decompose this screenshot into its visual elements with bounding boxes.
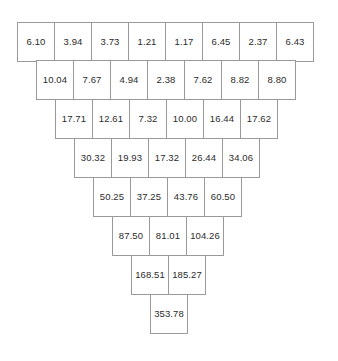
pyramid-cell: 3.94 bbox=[54, 22, 92, 62]
pyramid-cell: 353.78 bbox=[150, 294, 188, 334]
pyramid-cell: 6.45 bbox=[202, 22, 240, 62]
pyramid-row: 6.103.943.731.211.176.452.376.43 bbox=[17, 22, 313, 62]
pyramid-row: 17.7112.617.3210.0016.4417.62 bbox=[55, 99, 277, 139]
pyramid-cell: 12.61 bbox=[92, 99, 130, 139]
pyramid-cell: 6.10 bbox=[17, 22, 55, 62]
pyramid-cell: 60.50 bbox=[204, 177, 242, 217]
pyramid-cell: 6.43 bbox=[276, 22, 314, 62]
pyramid-cell: 10.04 bbox=[36, 60, 74, 100]
pyramid-cell: 8.82 bbox=[221, 60, 259, 100]
pyramid-cell: 17.71 bbox=[55, 99, 93, 139]
pyramid-row: 30.3219.9317.3226.4434.06 bbox=[74, 138, 259, 178]
pyramid-cell: 1.17 bbox=[165, 22, 203, 62]
pyramid-cell: 50.25 bbox=[93, 177, 131, 217]
pyramid-cell: 43.76 bbox=[167, 177, 205, 217]
pyramid-row: 10.047.674.942.387.628.828.80 bbox=[36, 60, 295, 100]
pyramid-cell: 7.32 bbox=[129, 99, 167, 139]
pyramid-cell: 7.67 bbox=[73, 60, 111, 100]
pyramid-cell: 37.25 bbox=[130, 177, 168, 217]
pyramid-cell: 16.44 bbox=[203, 99, 241, 139]
pyramid-cell: 17.32 bbox=[148, 138, 186, 178]
pyramid-cell: 26.44 bbox=[185, 138, 223, 178]
pyramid-cell: 3.73 bbox=[91, 22, 129, 62]
pyramid-row: 50.2537.2543.7660.50 bbox=[93, 177, 241, 217]
pyramid-cell: 168.51 bbox=[131, 255, 169, 295]
pyramid-cell: 34.06 bbox=[222, 138, 260, 178]
pyramid-cell: 4.94 bbox=[110, 60, 148, 100]
pyramid-cell: 185.27 bbox=[168, 255, 206, 295]
pyramid-cell: 7.62 bbox=[184, 60, 222, 100]
pyramid-cell: 104.26 bbox=[186, 216, 224, 256]
sum-pyramid: 6.103.943.731.211.176.452.376.4310.047.6… bbox=[0, 0, 338, 361]
pyramid-cell: 2.38 bbox=[147, 60, 185, 100]
pyramid-cell: 87.50 bbox=[112, 216, 150, 256]
pyramid-cell: 19.93 bbox=[111, 138, 149, 178]
pyramid-row: 168.51185.27 bbox=[131, 255, 205, 295]
pyramid-row: 87.5081.01104.26 bbox=[112, 216, 223, 256]
pyramid-row: 353.78 bbox=[150, 294, 187, 334]
pyramid-cell: 2.37 bbox=[239, 22, 277, 62]
pyramid-cell: 81.01 bbox=[149, 216, 187, 256]
pyramid-cell: 8.80 bbox=[258, 60, 296, 100]
pyramid-cell: 30.32 bbox=[74, 138, 112, 178]
pyramid-cell: 10.00 bbox=[166, 99, 204, 139]
pyramid-cell: 17.62 bbox=[240, 99, 278, 139]
pyramid-cell: 1.21 bbox=[128, 22, 166, 62]
